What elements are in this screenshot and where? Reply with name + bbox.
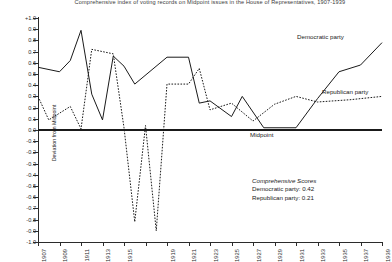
x-tick-label: 1923: [213, 249, 219, 262]
y-tick-label: -0.2: [26, 149, 36, 155]
x-tick: [296, 242, 297, 246]
x-tick-label: 1919: [170, 249, 176, 262]
x-tick: [318, 242, 319, 246]
y-tick-label: 0.1: [28, 116, 36, 122]
x-tick: [60, 242, 61, 246]
x-tick-label: 1925: [234, 249, 240, 262]
y-tick-label: -0.8: [26, 217, 36, 223]
x-tick: [339, 242, 340, 246]
x-tick-label: 1927: [256, 249, 262, 262]
y-tick-label: 0.9: [28, 26, 36, 32]
x-tick-label: 1909: [62, 249, 68, 262]
comprehensive-scores-box: Comprehensive Scores Democratic party: 0…: [252, 177, 316, 202]
y-tick-label: 0.2: [28, 105, 36, 111]
series-label-democratic: Democratic party: [297, 33, 344, 41]
x-tick: [146, 242, 147, 246]
x-tick-label: 1907: [41, 249, 47, 262]
x-tick-label: 1913: [105, 249, 111, 262]
midpoint-label: Midpoint: [250, 131, 273, 139]
y-tick-label: 0.5: [28, 71, 36, 77]
y-tick-label: 0.4: [28, 82, 36, 88]
plot-area: Deviation from Midpoint +1.00.90.80.70.6…: [38, 18, 382, 242]
y-tick-label: +1.0: [25, 15, 36, 21]
x-tick-label: 1939: [385, 249, 391, 262]
x-tick-label: 1935: [342, 249, 348, 262]
series-line-democratic: [38, 30, 382, 127]
series-line-republican: [38, 49, 382, 230]
x-tick: [167, 242, 168, 246]
y-tick-label: -0.3: [26, 161, 36, 167]
series-label-republican: Republican party: [322, 88, 368, 96]
y-tick-label: -0.9: [26, 228, 36, 234]
y-tick-label: -0.4: [26, 172, 36, 178]
y-tick-label: -0.6: [26, 194, 36, 200]
x-tick: [382, 242, 383, 246]
scores-democratic: Democratic party: 0.42: [252, 185, 316, 193]
x-tick-label: 1929: [277, 249, 283, 262]
y-tick-label: 0.7: [28, 49, 36, 55]
x-tick-label: 1931: [299, 249, 305, 262]
x-tick-label: 1937: [363, 249, 369, 262]
scores-heading: Comprehensive Scores: [252, 177, 316, 185]
x-tick: [81, 242, 82, 246]
series-lines: [38, 18, 382, 242]
y-tick-label: -1.0: [26, 239, 36, 245]
x-tick: [361, 242, 362, 246]
y-tick-label: 0.6: [28, 60, 36, 66]
y-tick-label: -0.7: [26, 205, 36, 211]
y-tick-label: -0.5: [26, 183, 36, 189]
y-tick-label: -0.1: [26, 138, 36, 144]
scores-republican: Republican party: 0.21: [252, 194, 316, 202]
y-tick-label: 0.0: [28, 127, 36, 133]
x-tick-label: 1921: [191, 249, 197, 262]
x-tick: [232, 242, 233, 246]
x-tick-label: 1915: [127, 249, 133, 262]
x-tick: [275, 242, 276, 246]
x-tick: [210, 242, 211, 246]
x-tick: [253, 242, 254, 246]
x-tick-label: 1911: [84, 249, 90, 261]
y-tick-label: 0.3: [28, 93, 36, 99]
x-tick: [189, 242, 190, 246]
chart-title: Comprehensive index of voting records on…: [45, 0, 375, 6]
x-tick-label: 1933: [320, 249, 326, 262]
x-tick: [103, 242, 104, 246]
x-tick: [38, 242, 39, 246]
y-tick-label: 0.8: [28, 37, 36, 43]
x-tick: [124, 242, 125, 246]
